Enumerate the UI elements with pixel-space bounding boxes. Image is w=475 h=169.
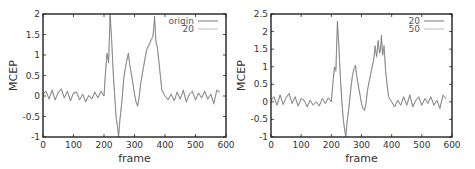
- series-line-50: [271, 25, 446, 136]
- x-tick-label: 400: [383, 140, 400, 150]
- y-tick-label: 2: [34, 9, 40, 19]
- x-tick-label: 100: [65, 140, 82, 150]
- x-tick-label: 400: [156, 140, 173, 150]
- chart-panel-2: 0100200300400500600-1-0.500.511.522.5fra…: [235, 9, 461, 165]
- x-tick-label: 600: [443, 140, 460, 150]
- legend-label: 20: [183, 24, 195, 34]
- x-tick-label: 500: [413, 140, 430, 150]
- y-tick-label: 1.5: [26, 30, 40, 40]
- y-axis-label: MCEP: [7, 60, 20, 91]
- x-tick-label: 0: [40, 140, 46, 150]
- x-tick-label: 500: [187, 140, 204, 150]
- x-tick-label: 200: [95, 140, 112, 150]
- x-tick-label: 300: [126, 140, 143, 150]
- x-tick-label: 0: [268, 140, 274, 150]
- y-tick-label: 0: [34, 91, 40, 101]
- x-tick-label: 100: [293, 140, 310, 150]
- y-tick-label: -0.5: [250, 114, 268, 124]
- plot-frame: [271, 14, 452, 137]
- y-tick-label: 2.5: [254, 9, 268, 19]
- y-axis-label: MCEP: [235, 60, 248, 91]
- legend-label: 50: [409, 24, 421, 34]
- mcep-comparison-figure: 0100200300400500600-1-0.500.511.52frameM…: [0, 0, 475, 169]
- series-line-20: [271, 21, 446, 137]
- y-tick-label: 0.5: [254, 79, 268, 89]
- y-tick-label: 1.5: [254, 44, 268, 54]
- y-tick-label: 1: [34, 50, 40, 60]
- x-tick-label: 200: [323, 140, 340, 150]
- y-tick-label: -1: [259, 132, 268, 142]
- y-tick-label: 0.5: [26, 71, 40, 81]
- y-tick-label: 0: [262, 97, 268, 107]
- legend: origin20: [168, 16, 218, 34]
- y-tick-label: 2: [262, 27, 268, 37]
- y-tick-label: -1: [31, 132, 40, 142]
- y-tick-label: -0.5: [22, 112, 40, 122]
- plot-frame: [43, 14, 226, 137]
- chart-panel-1: 0100200300400500600-1-0.500.511.52frameM…: [7, 9, 235, 165]
- x-tick-label: 300: [353, 140, 370, 150]
- legend: 2050: [409, 16, 444, 34]
- x-axis-label: frame: [345, 152, 378, 165]
- x-axis-label: frame: [118, 152, 151, 165]
- y-tick-label: 1: [262, 62, 268, 72]
- x-tick-label: 600: [217, 140, 234, 150]
